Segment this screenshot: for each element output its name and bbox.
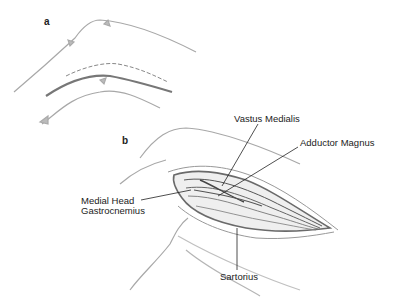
panel-label-b: b [122,135,128,146]
panel-a-drawing [14,20,196,124]
anatomical-figure: a b Vastus Medialis Adductor Magnus Medi… [0,0,396,306]
label-sartorius: Sartorius [220,272,258,282]
figure-drawing [0,0,396,306]
label-adductor-magnus: Adductor Magnus [300,138,374,148]
label-gastrocnemius: Gastrocnemius [81,206,145,216]
panel-label-a: a [44,16,50,27]
label-vastus-medialis: Vastus Medialis [234,114,300,124]
